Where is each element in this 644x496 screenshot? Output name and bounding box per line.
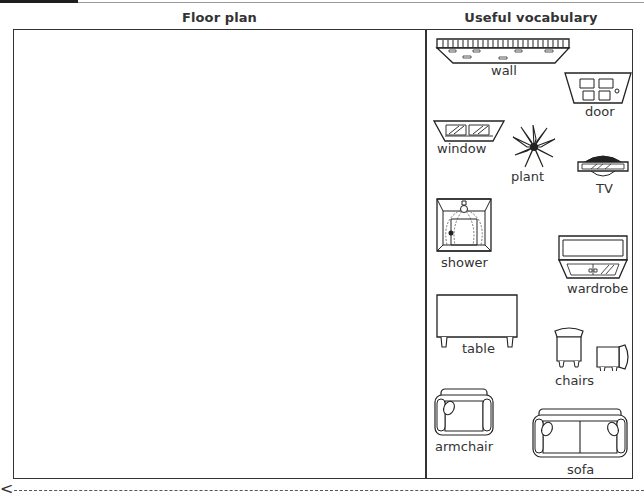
chairs-icon — [553, 327, 629, 371]
vocab-label-wall: wall — [491, 63, 517, 78]
vocab-item-door: door — [564, 71, 632, 105]
shower-icon — [435, 197, 493, 253]
floor-plan-heading: Floor plan — [13, 10, 426, 25]
scissors-icon: < — [0, 481, 13, 496]
vocab-label-sofa: sofa — [567, 462, 594, 477]
vocab-item-table: table — [435, 293, 519, 351]
vocab-item-shower: shower — [435, 197, 493, 253]
vocab-item-armchair: armchair — [433, 387, 495, 437]
vocab-label-wardrobe: wardrobe — [567, 281, 628, 296]
armchair-icon — [433, 387, 495, 437]
vocab-label-window: window — [437, 141, 486, 156]
vocabulary-heading: Useful vocabulary — [427, 10, 635, 25]
vocab-item-tv: TV — [577, 153, 629, 183]
door-icon — [564, 71, 632, 105]
cut-line — [14, 490, 644, 491]
wall-icon — [435, 37, 571, 65]
tv-icon — [577, 153, 629, 183]
vocab-label-chairs: chairs — [555, 373, 594, 388]
floor-plan-drawing-area[interactable] — [15, 31, 424, 477]
header-accent-bar — [0, 0, 78, 3]
vocab-label-tv: TV — [596, 181, 613, 196]
plant-icon — [511, 125, 557, 169]
vocab-label-door: door — [585, 104, 615, 119]
vocab-label-plant: plant — [511, 169, 544, 184]
vocab-item-sofa: sofa — [531, 407, 629, 459]
header-rule — [78, 2, 644, 3]
vocab-label-shower: shower — [441, 255, 488, 270]
wardrobe-icon — [557, 234, 629, 280]
vocab-item-plant: plant — [511, 125, 557, 169]
vocabulary-panel: wall door window — [427, 31, 633, 477]
vocab-item-chairs: chairs — [553, 327, 629, 371]
sofa-icon — [531, 407, 629, 459]
vocab-item-wall: wall — [435, 37, 571, 65]
window-icon — [433, 119, 505, 143]
vocab-item-wardrobe: wardrobe — [557, 234, 629, 280]
vocab-label-armchair: armchair — [435, 439, 493, 454]
vocab-item-window: window — [433, 119, 505, 143]
vocab-label-table: table — [462, 341, 495, 356]
